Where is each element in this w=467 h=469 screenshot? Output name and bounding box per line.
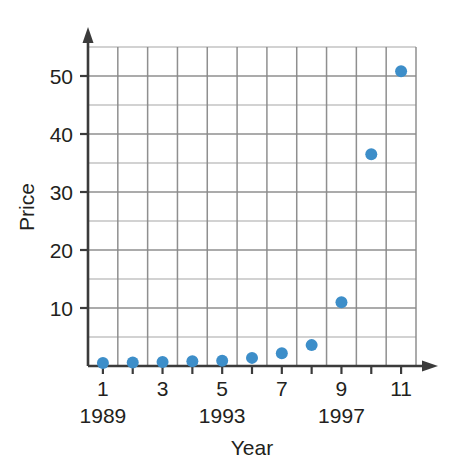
data-point xyxy=(395,65,407,77)
vertical-gridlines xyxy=(88,47,416,366)
y-axis-title: Price xyxy=(15,183,38,231)
data-point-series xyxy=(97,65,407,369)
x-year-label: 1997 xyxy=(318,404,365,427)
chart-canvas: 1020304050 1357911 198919931997 Price Ye… xyxy=(0,0,467,469)
y-tick-label: 10 xyxy=(50,297,73,320)
x-axis-year-labels: 198919931997 xyxy=(80,404,365,427)
data-point xyxy=(276,347,288,359)
data-point xyxy=(335,296,347,308)
x-tick-label: 7 xyxy=(276,377,288,400)
y-tick-label: 30 xyxy=(50,181,73,204)
data-point xyxy=(127,357,139,369)
data-point xyxy=(246,352,258,364)
axis-lines xyxy=(83,27,439,372)
data-point xyxy=(157,356,169,368)
scatter-plot-figure: 1020304050 1357911 198919931997 Price Ye… xyxy=(0,0,467,469)
x-year-label: 1989 xyxy=(80,404,127,427)
data-point xyxy=(186,355,198,367)
data-point xyxy=(97,357,109,369)
x-axis-tick-labels: 1357911 xyxy=(97,377,412,400)
x-tick-label: 5 xyxy=(216,377,228,400)
data-point xyxy=(365,148,377,160)
y-tick-label: 50 xyxy=(50,65,73,88)
x-tick-label: 3 xyxy=(157,377,169,400)
x-tick-label: 1 xyxy=(97,377,109,400)
y-tick-label: 40 xyxy=(50,123,73,146)
y-tick-label: 20 xyxy=(50,239,73,262)
x-tick-label: 11 xyxy=(390,377,412,400)
x-axis-arrowhead xyxy=(422,361,438,372)
y-axis-tick-labels: 1020304050 xyxy=(50,65,73,320)
data-point xyxy=(216,355,228,367)
horizontal-gridlines xyxy=(88,47,416,366)
data-point xyxy=(306,339,318,351)
x-tick-label: 9 xyxy=(336,377,348,400)
y-axis-arrowhead xyxy=(83,27,94,43)
x-year-label: 1993 xyxy=(199,404,246,427)
x-axis-title: Year xyxy=(231,436,273,459)
